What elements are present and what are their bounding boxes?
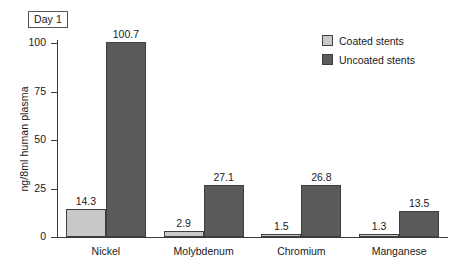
y-tick-label-wrap-50: 50 — [0, 134, 46, 145]
y-tick-label-25: 25 — [0, 183, 46, 194]
bar-value-molybdenum-uncoated: 27.1 — [196, 171, 252, 183]
legend: Coated stents Uncoated stents — [322, 34, 415, 72]
legend-item-coated[interactable]: Coated stents — [322, 34, 415, 47]
y-tick-label-wrap-25: 25 — [0, 183, 46, 194]
y-tick-label-wrap-100: 100 — [0, 37, 46, 48]
x-axis-label-chromium: Chromium — [253, 245, 351, 257]
y-tick-label-75: 75 — [0, 86, 46, 97]
x-axis-label-molybdenum: Molybdenum — [155, 245, 253, 257]
y-tick-mark-0 — [51, 237, 58, 238]
bar-chart: Day 1 ng/8ml human plasma 0255075100 14.… — [0, 0, 454, 273]
legend-label-coated: Coated stents — [339, 35, 404, 47]
bar-value-chromium-uncoated: 26.8 — [293, 171, 349, 183]
legend-swatch-coated-icon — [322, 35, 333, 46]
legend-label-uncoated: Uncoated stents — [339, 54, 415, 66]
y-tick-label-wrap-0: 0 — [0, 231, 46, 242]
y-tick-label-0: 0 — [0, 231, 46, 242]
bar-molybdenum-uncoated[interactable] — [204, 185, 244, 238]
legend-swatch-uncoated-icon — [322, 54, 333, 65]
bar-nickel-coated[interactable] — [66, 209, 106, 237]
bar-manganese-coated[interactable] — [359, 234, 399, 237]
x-axis-label-manganese: Manganese — [350, 245, 448, 257]
bar-molybdenum-coated[interactable] — [164, 231, 204, 237]
y-tick-label-100: 100 — [0, 37, 46, 48]
bar-nickel-uncoated[interactable] — [106, 42, 146, 237]
y-tick-label-wrap-75: 75 — [0, 86, 46, 97]
y-tick-label-50: 50 — [0, 134, 46, 145]
x-axis-line — [57, 237, 448, 238]
bar-chromium-coated[interactable] — [261, 234, 301, 237]
bar-manganese-uncoated[interactable] — [399, 211, 439, 237]
bar-value-manganese-uncoated: 13.5 — [391, 197, 447, 209]
bar-value-nickel-uncoated: 100.7 — [98, 28, 154, 40]
bar-chromium-uncoated[interactable] — [301, 185, 341, 237]
x-axis-label-nickel: Nickel — [57, 245, 155, 257]
legend-item-uncoated[interactable]: Uncoated stents — [322, 53, 415, 66]
